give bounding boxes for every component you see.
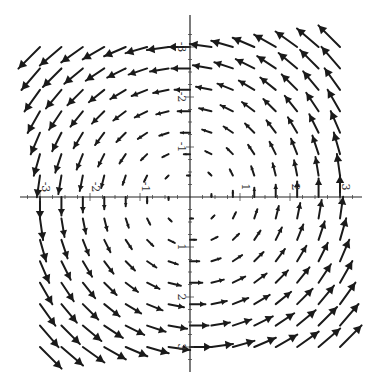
vector-arrow (64, 68, 83, 83)
vector-arrow (98, 154, 104, 166)
vector-arrow (147, 347, 169, 355)
vector-arrow (266, 120, 275, 132)
vector-arrow (159, 133, 168, 137)
vector-arrow (282, 74, 297, 89)
vector-arrow (147, 304, 162, 311)
vector-arrow (116, 133, 125, 142)
vector-arrow (297, 267, 309, 282)
vector-arrow (340, 218, 348, 240)
vector-arrow (135, 111, 147, 117)
vector-arrow (254, 273, 266, 282)
vector-arrow (190, 238, 196, 241)
vector-arrow (318, 25, 340, 47)
vector-arrow (156, 111, 168, 116)
vector-field-plot: -3-2-1123321-1-2-3 (0, 0, 384, 392)
vector-arrow (276, 270, 288, 282)
vector-arrow (184, 153, 190, 156)
vector-arrow (340, 283, 355, 305)
vector-arrow (147, 326, 166, 334)
vector-arrow (107, 68, 126, 78)
vector-arrow (233, 255, 242, 261)
y-tick-label: -2 (175, 92, 188, 103)
vector-arrow (40, 47, 62, 66)
vector-arrow (338, 197, 346, 219)
vector-arrow (340, 325, 362, 347)
x-tick-label: -2 (89, 182, 102, 193)
vector-arrow (297, 224, 304, 239)
vector-arrow (332, 133, 340, 155)
vector-arrow (83, 347, 105, 362)
vector-arrow (242, 102, 254, 111)
vector-arrow (82, 218, 88, 233)
vector-arrow (120, 154, 126, 163)
y-tick-label: 2 (175, 294, 188, 301)
vector-arrow (113, 111, 125, 120)
vector-arrow (169, 261, 178, 265)
vector-arrow (169, 218, 172, 221)
vector-arrow (233, 37, 255, 47)
vector-arrow (153, 89, 168, 95)
vector-arrow (276, 313, 295, 325)
vector-arrow (132, 90, 147, 97)
vector-arrow (211, 237, 217, 240)
vector-arrow (40, 261, 50, 283)
vector-arrow (254, 295, 269, 304)
y-tick-label: 3 (175, 344, 188, 351)
vector-arrow (40, 347, 62, 369)
vector-arrow (61, 304, 76, 323)
vector-arrow (309, 114, 319, 133)
vector-arrow (32, 154, 40, 176)
vector-arrow (297, 310, 316, 325)
vector-arrow (199, 107, 211, 112)
vector-arrow (67, 90, 82, 105)
vector-arrow (233, 212, 236, 218)
vector-arrow (253, 188, 257, 197)
x-tick-label: 3 (339, 184, 352, 191)
vector-arrow (126, 218, 130, 227)
vector-arrow (296, 203, 302, 218)
vector-arrow (147, 45, 169, 53)
vector-arrow (129, 68, 148, 76)
vector-arrow (276, 249, 285, 261)
vector-arrow (25, 90, 40, 112)
vector-arrow (147, 240, 153, 246)
vector-arrow (49, 111, 61, 130)
vector-arrow (202, 129, 211, 133)
vector-arrow (46, 90, 61, 109)
vector-arrow (319, 307, 338, 326)
vector-arrow (52, 133, 62, 152)
vector-arrow (61, 261, 71, 280)
plot-canvas: -3-2-1123321-1-2-3 (0, 0, 384, 392)
vector-arrow (275, 206, 280, 218)
vector-arrow (89, 90, 104, 102)
vector-arrow (124, 197, 128, 206)
vector-arrow (169, 240, 175, 243)
vector-arrow (126, 47, 148, 55)
vector-arrow (181, 131, 190, 135)
vector-arrow (211, 299, 226, 305)
vector-arrow (61, 240, 69, 259)
vector-arrow (330, 111, 340, 133)
vector-arrow (221, 105, 233, 111)
vector-arrow (141, 154, 147, 160)
vector-arrow (276, 292, 291, 304)
vector-arrow (271, 163, 276, 175)
vector-arrow (224, 127, 233, 133)
vector-arrow (254, 35, 276, 47)
vector-arrow (319, 286, 334, 305)
vector-arrow (40, 283, 52, 305)
vector-arrow (248, 145, 254, 154)
vector-arrow (95, 133, 104, 145)
vector-arrow (40, 304, 55, 326)
vector-arrow (263, 99, 275, 111)
vector-arrow (319, 328, 341, 347)
vector-arrow (315, 178, 322, 197)
vector-arrow (254, 316, 273, 326)
vector-arrow (28, 111, 40, 133)
vector-arrow (86, 68, 105, 80)
vector-arrow (288, 117, 297, 132)
vector-arrow (83, 283, 95, 298)
vector-arrow (217, 83, 232, 90)
vector-arrow (233, 234, 239, 240)
vector-arrow (340, 261, 352, 283)
